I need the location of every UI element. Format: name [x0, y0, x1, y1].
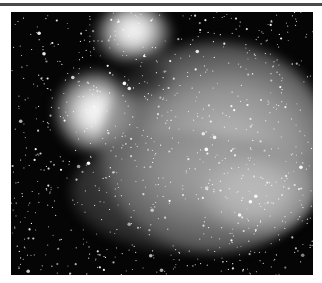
star-field — [11, 12, 313, 275]
nebula-photograph — [11, 12, 313, 275]
top-rule — [0, 3, 322, 6]
